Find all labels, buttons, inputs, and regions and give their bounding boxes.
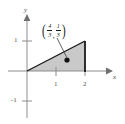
plot-area — [0, 0, 125, 124]
fraction-x-denominator: 3 — [47, 32, 52, 38]
centroid-point-marker — [64, 57, 69, 62]
x-tick-label-2: 2 — [83, 81, 87, 88]
fraction-y-numerator: 1 — [56, 23, 61, 29]
fraction-x-coordinate: 4 3 — [47, 23, 52, 38]
y-axis-label: y — [24, 7, 27, 14]
y-tick-label-minus-1: -1 — [11, 97, 17, 104]
coordinate-comma: , — [53, 32, 55, 40]
fraction-y-denominator: 3 — [56, 32, 61, 38]
close-paren: ) — [62, 22, 66, 39]
y-axis-arrow-icon — [24, 14, 31, 21]
centroid-coordinate-label: ( 4 3 , 1 3 ) — [41, 22, 67, 39]
x-axis-arrow-icon — [106, 68, 113, 75]
y-tick-label-1: 1 — [14, 37, 18, 44]
fraction-y-coordinate: 1 3 — [56, 23, 61, 38]
x-tick-label-1: 1 — [54, 81, 58, 88]
open-paren: ( — [42, 22, 46, 39]
x-axis-label: x — [113, 74, 116, 81]
figure-canvas: x y 1 2 1 -1 ( 4 3 , 1 3 ) — [0, 0, 125, 124]
fraction-x-numerator: 4 — [47, 23, 52, 29]
